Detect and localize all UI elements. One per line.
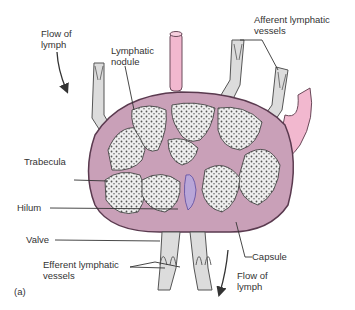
efferent-vessels	[158, 232, 212, 290]
blood-vessel-top	[170, 32, 182, 92]
label-hilum: Hilum	[17, 202, 41, 213]
label-valve: Valve	[26, 234, 49, 245]
label-afferent-lymphatic-vessels: Afferent lymphatic vessels	[254, 14, 330, 36]
label-capsule: Capsule	[252, 251, 287, 262]
label-flow-of-lymph-top: Flow of lymph	[41, 28, 72, 50]
flow-arrow-top	[57, 52, 66, 89]
label-trabecula: Trabecula	[24, 156, 66, 167]
label-efferent-lymphatic-vessels: Efferent lymphatic vessels	[43, 259, 119, 281]
label-flow-of-lymph-bottom: Flow of lymph	[237, 270, 268, 292]
label-panel-a: (a)	[14, 286, 26, 297]
flow-arrow-bottom	[220, 250, 228, 292]
label-lymphatic-nodule: Lymphatic nodule	[111, 45, 154, 67]
